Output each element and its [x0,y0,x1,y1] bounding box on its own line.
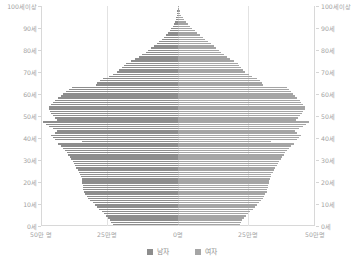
bar-row [41,189,315,190]
bar-male [103,78,178,79]
bar-female [178,113,302,114]
bar-row [41,137,315,138]
y-tick-label-right: 60세 [321,91,335,98]
bar-female [178,97,297,98]
y-tick-label-right: 30세 [321,157,335,164]
bar-female [178,135,301,136]
bar-male [72,87,178,88]
bar-female [178,191,267,192]
bar-female [178,185,268,186]
bar-row [41,47,315,48]
bar-female [178,67,241,68]
bar-male [49,106,178,107]
bar-female [178,206,255,207]
bar-female [178,45,214,46]
legend-item[interactable]: 남자 [147,248,169,256]
bar-male [88,198,178,199]
bar-row [41,100,315,101]
bar-row [41,30,315,31]
bar-row [41,132,315,133]
x-tick-label: 25만명 [83,231,131,239]
bar-female [178,121,309,122]
bar-row [41,178,315,179]
bar-row [41,156,315,157]
bar-male [154,45,178,46]
bar-row [41,84,315,85]
bar-row [41,26,315,27]
bar-row [41,28,315,29]
y-tick-label-right: 10세 [321,201,335,208]
y-tick-label-left: 50세 [23,113,37,120]
bar-male [170,30,178,31]
bar-female [178,47,216,48]
bar-male [93,202,178,203]
bar-row [41,222,315,223]
bar-row [41,193,315,194]
bar-row [41,71,315,72]
bar-female [178,161,279,162]
bar-male [122,67,178,68]
bar-female [178,71,245,72]
bar-row [41,119,315,120]
bars-container [41,6,315,226]
bar-row [41,152,315,153]
bar-row [41,54,315,55]
bar-male [90,200,178,201]
bar-row [41,76,315,77]
legend-item[interactable]: 여자 [195,248,217,256]
bar-female [178,111,303,112]
bar-male [82,182,178,183]
bar-row [41,167,315,168]
bar-male [53,115,178,116]
bar-male [166,34,178,35]
bar-female [178,117,298,118]
bar-row [41,97,315,98]
bar-row [41,89,315,90]
bar-female [178,26,190,27]
bar-male [96,84,178,85]
bar-row [41,82,315,83]
bar-male [111,222,178,223]
bar-female [178,84,263,85]
bar-male [67,152,178,153]
y-tick-label-left: 70세 [23,69,37,76]
bar-row [41,23,315,24]
bar-male [69,89,178,90]
bar-male [63,148,178,149]
y-tick-label-left: 60세 [23,91,37,98]
bar-female [178,69,243,70]
bar-male [84,191,178,192]
bar-female [178,187,268,188]
y-tick-mark-right [316,28,319,29]
y-tick-mark-right [316,50,319,51]
bar-female [178,209,253,210]
bar-male [46,124,178,125]
bar-row [41,224,315,225]
bar-female [178,30,195,31]
bar-male [82,178,178,179]
bar-male [126,63,178,64]
bar-row [41,67,315,68]
bar-male [74,163,178,164]
y-tick-label-right: 90세 [321,25,335,32]
bar-female [178,23,188,24]
bar-female [178,202,259,203]
bar-male [53,128,178,129]
bar-row [41,60,315,61]
bar-male [68,154,178,155]
bar-female [178,211,250,212]
y-tick-mark-right [316,116,319,117]
chart-legend: 남자여자 [0,248,363,256]
bar-female [178,52,221,53]
bar-female [178,19,184,20]
bar-male [117,71,178,72]
bar-row [41,202,315,203]
bar-male [57,130,178,131]
bar-female [178,80,260,81]
bar-male [49,126,178,127]
y-tick-mark-right [316,204,319,205]
y-tick-label-right: 20세 [321,179,335,186]
bar-female [178,128,299,129]
bar-female [178,78,257,79]
bar-row [41,163,315,164]
